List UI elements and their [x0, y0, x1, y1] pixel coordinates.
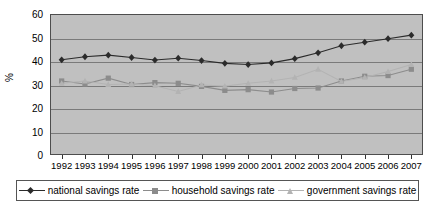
x-axis-tick-label: 2001: [261, 160, 282, 171]
x-axis-tick-mark: [318, 155, 319, 159]
data-point-marker: [245, 61, 251, 68]
x-axis-tick-label: 2005: [354, 160, 375, 171]
data-point-marker: [409, 67, 414, 72]
x-axis-tick-mark: [62, 155, 63, 159]
x-axis-tick-label: 2004: [331, 160, 352, 171]
y-axis-tick-label: 60: [32, 9, 43, 20]
y-axis-tick-label: 40: [32, 56, 43, 67]
x-axis-tick-mark: [178, 155, 179, 159]
legend-label: government savings rate: [307, 185, 417, 196]
series-government-savings-rate: [59, 61, 415, 94]
x-axis-tick-label: 2006: [377, 160, 398, 171]
data-point-marker: [408, 61, 414, 67]
series-overlay: [50, 14, 423, 155]
data-point-marker: [385, 35, 391, 42]
x-axis-tick-mark: [155, 155, 156, 159]
x-axis-tick-label: 2003: [308, 160, 329, 171]
x-axis-tick-mark: [202, 155, 203, 159]
x-axis-tick-label: 1997: [168, 160, 189, 171]
legend-item-national-savings-rate[interactable]: national savings rate: [19, 185, 140, 196]
data-point-marker: [199, 57, 205, 64]
savings-rate-line-chart: % 0102030405060 199219931994199519961997…: [0, 0, 435, 215]
x-axis-tick-mark: [295, 155, 296, 159]
data-point-marker: [246, 87, 251, 92]
series-household-savings-rate: [59, 67, 414, 95]
series-line: [62, 65, 412, 92]
series-line: [62, 35, 412, 64]
x-axis-tick-label: 2007: [401, 160, 422, 171]
data-point-marker: [59, 56, 65, 63]
legend-item-government-savings-rate[interactable]: government savings rate: [278, 185, 417, 196]
data-point-marker: [175, 55, 181, 62]
x-axis-tick-label: 1998: [191, 160, 212, 171]
x-axis-tick-mark: [132, 155, 133, 159]
data-point-marker: [152, 57, 158, 64]
y-axis-tick-label: 30: [32, 79, 43, 90]
legend-item-household-savings-rate[interactable]: household savings rate: [143, 185, 275, 196]
x-axis-tick-mark: [108, 155, 109, 159]
data-point-marker: [362, 39, 368, 46]
chart-legend: national savings ratehousehold savings r…: [16, 180, 419, 201]
data-point-marker: [269, 89, 274, 94]
y-axis-tick-label: 10: [32, 126, 43, 137]
series-national-savings-rate: [59, 32, 415, 68]
data-point-marker: [106, 76, 111, 81]
data-point-marker: [292, 55, 298, 62]
legend-swatch-diamond-icon: [19, 186, 45, 196]
x-axis-tick-mark: [271, 155, 272, 159]
data-point-marker: [82, 78, 88, 84]
data-point-marker: [315, 66, 321, 72]
x-axis-tick-label: 1993: [74, 160, 95, 171]
data-point-marker: [315, 85, 320, 90]
y-axis-tick-label: 0: [37, 150, 43, 161]
legend-swatch-square-icon: [143, 186, 169, 196]
data-point-marker: [105, 52, 111, 59]
data-point-marker: [222, 60, 228, 67]
x-axis-tick-mark: [341, 155, 342, 159]
x-axis-tick-label: 1999: [214, 160, 235, 171]
data-point-marker: [222, 88, 227, 93]
legend-swatch-triangle-icon: [278, 186, 304, 196]
x-axis-tick-label: 2000: [238, 160, 259, 171]
data-point-marker: [338, 42, 344, 49]
y-axis-tick-label: 20: [32, 103, 43, 114]
data-point-marker: [292, 86, 297, 91]
series-line: [62, 69, 412, 92]
data-point-marker: [82, 53, 88, 60]
x-axis-tick-label: 1994: [98, 160, 119, 171]
x-axis-tick-mark: [225, 155, 226, 159]
data-point-marker: [408, 32, 414, 39]
x-axis-tick-label: 1995: [121, 160, 142, 171]
legend-label: national savings rate: [48, 185, 140, 196]
legend-label: household savings rate: [172, 185, 275, 196]
x-axis-tick-labels: 1992199319941995199619971998199920002001…: [50, 160, 423, 176]
data-point-marker: [176, 81, 181, 86]
x-axis-tick-label: 2002: [284, 160, 305, 171]
data-point-marker: [315, 49, 321, 56]
x-axis-tick-mark: [248, 155, 249, 159]
x-axis-tick-mark: [85, 155, 86, 159]
x-axis-tick-mark: [411, 155, 412, 159]
y-axis-tick-label: 50: [32, 32, 43, 43]
data-point-marker: [268, 59, 274, 66]
x-axis-tick-mark: [388, 155, 389, 159]
x-axis-tick-mark: [365, 155, 366, 159]
x-axis-tick-label: 1996: [144, 160, 165, 171]
x-axis-tick-label: 1992: [51, 160, 72, 171]
data-point-marker: [129, 54, 135, 61]
